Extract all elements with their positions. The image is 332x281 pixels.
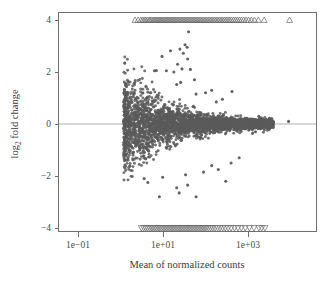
y-tick-label: −4: [41, 223, 51, 233]
x-tick-label: 1e+03: [236, 240, 260, 250]
data-point: [150, 96, 153, 99]
data-point: [139, 94, 142, 97]
data-point: [179, 136, 182, 139]
y-axis-ticks: 420−2−4: [41, 15, 59, 233]
data-point: [230, 90, 233, 93]
data-point: [133, 162, 136, 165]
data-point: [235, 120, 238, 123]
data-point: [265, 118, 268, 121]
data-point: [128, 154, 131, 157]
data-point: [174, 117, 177, 120]
data-point: [220, 126, 223, 129]
data-point: [154, 144, 157, 147]
data-point: [182, 52, 185, 55]
data-point: [134, 89, 137, 92]
data-point: [184, 173, 187, 176]
data-point: [135, 117, 138, 120]
data-point: [263, 127, 266, 130]
data-point: [165, 69, 168, 72]
clipped-up-triangle-icon: [287, 17, 293, 22]
data-point: [195, 118, 198, 121]
data-point: [208, 121, 211, 124]
data-point: [193, 78, 196, 81]
data-point: [195, 135, 198, 138]
data-point: [251, 128, 254, 131]
data-point: [171, 120, 174, 123]
data-point: [129, 162, 132, 165]
data-point: [210, 164, 213, 167]
data-point: [175, 186, 178, 189]
data-point: [178, 98, 181, 101]
data-point: [126, 69, 129, 72]
data-point: [249, 124, 252, 127]
data-point: [143, 115, 146, 118]
data-point: [172, 103, 175, 106]
data-point: [151, 113, 154, 116]
data-point: [187, 30, 190, 33]
data-point: [157, 109, 160, 112]
data-point: [185, 121, 188, 124]
data-point: [213, 120, 216, 123]
data-point: [176, 125, 179, 128]
data-point: [135, 105, 138, 108]
data-point: [169, 125, 172, 128]
data-point: [186, 46, 189, 49]
data-point: [162, 115, 165, 118]
data-point: [172, 114, 175, 117]
data-point: [140, 103, 143, 106]
data-point: [204, 91, 207, 94]
y-axis-title-base: log: [9, 144, 20, 158]
data-point: [166, 106, 169, 109]
data-point: [161, 55, 164, 58]
data-point: [253, 123, 256, 126]
data-point: [127, 83, 130, 86]
data-point: [140, 136, 143, 139]
data-point: [196, 129, 199, 132]
data-point: [210, 89, 213, 92]
data-point: [181, 109, 184, 112]
data-point: [168, 140, 171, 143]
data-point: [123, 56, 126, 59]
data-point: [230, 161, 233, 164]
data-point: [149, 118, 152, 121]
data-point: [224, 180, 227, 183]
data-point: [148, 141, 151, 144]
data-point: [190, 119, 193, 122]
data-point: [187, 135, 190, 138]
data-point: [183, 126, 186, 129]
data-point: [237, 128, 240, 131]
data-point: [248, 118, 251, 121]
data-point: [195, 114, 198, 117]
data-point: [136, 100, 139, 103]
y-tick-label: 4: [46, 15, 51, 25]
data-point: [143, 145, 146, 148]
data-point: [146, 136, 149, 139]
data-point: [263, 125, 266, 128]
data-point: [123, 118, 126, 121]
data-point: [222, 115, 225, 118]
data-point: [146, 91, 149, 94]
data-point: [161, 139, 164, 142]
data-point: [152, 88, 155, 91]
data-point: [217, 116, 220, 119]
data-point: [222, 117, 225, 120]
data-point: [126, 79, 129, 82]
data-point: [259, 125, 262, 128]
data-point: [180, 133, 183, 136]
data-point: [146, 119, 149, 122]
data-point: [234, 115, 237, 118]
data-point: [145, 102, 148, 105]
data-point: [139, 158, 142, 161]
data-point: [239, 114, 242, 117]
data-point: [122, 105, 125, 108]
data-point: [143, 125, 146, 128]
data-point: [144, 157, 147, 160]
data-point: [175, 121, 178, 124]
data-point: [134, 125, 137, 128]
data-point: [122, 136, 125, 139]
data-point: [127, 121, 130, 124]
x-tick-label: 1e−01: [66, 240, 90, 250]
data-point: [180, 67, 183, 70]
data-point: [122, 154, 125, 157]
data-point: [186, 184, 189, 187]
